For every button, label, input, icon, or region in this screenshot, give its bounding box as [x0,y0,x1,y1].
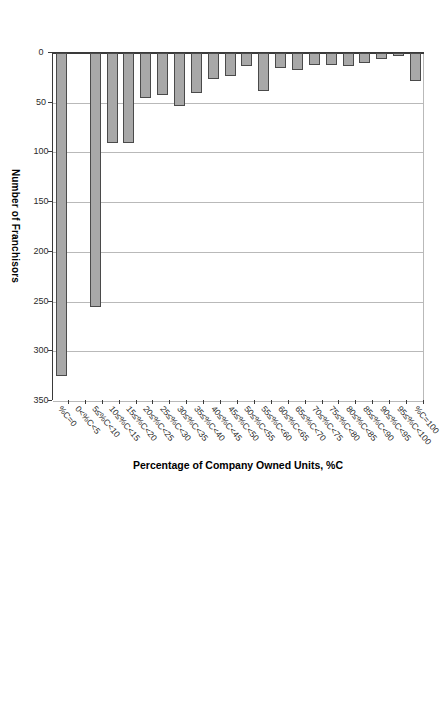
value-tick-mark-200 [48,251,52,252]
value-tick-label-150: 150 [33,196,48,206]
category-axis-title: Percentage of Company Owned Units, %C [52,455,424,475]
value-tick-mark-0 [48,52,52,53]
bar [393,53,404,56]
value-tick-label-100: 100 [33,146,48,156]
category-tick-mark [203,400,204,404]
bar-row [239,53,256,400]
category-tick-mark [102,400,103,404]
value-tick-label-0: 0 [38,47,43,57]
bar-row [340,53,357,400]
bar-row [390,53,407,400]
value-tick-mark-100 [48,151,52,152]
bar-row [289,53,306,400]
category-tick-mark [372,400,373,404]
category-axis-title-text: Percentage of Company Owned Units, %C [133,459,343,471]
value-tick-label-50: 50 [36,97,46,107]
category-tick-mark [271,400,272,404]
bar-row [205,53,222,400]
category-tick-mark [288,400,289,404]
bar-series [53,53,424,400]
bar-row [87,53,104,400]
bar [292,53,303,70]
category-tick-mark [119,400,120,404]
bar [360,53,371,63]
bar-row [154,53,171,400]
category-tick-mark [423,400,424,404]
category-tick-mark [169,400,170,404]
bar-row [171,53,188,400]
bar [191,53,202,93]
bar [225,53,236,76]
bar [326,53,337,65]
category-tick-mark [85,400,86,404]
bar-row [222,53,239,400]
value-tick-label-300: 300 [33,345,48,355]
value-axis-title: Number of Franchisors [10,0,21,452]
value-tick-label-250: 250 [33,296,48,306]
bar [309,53,320,65]
bar-row [121,53,138,400]
bar-row [306,53,323,400]
value-axis: 050100150200250300350 [18,52,52,400]
bar [174,53,185,106]
category-tick-mark [220,400,221,404]
bar-row [70,53,87,400]
bar-row [104,53,121,400]
value-tick-mark-250 [48,301,52,302]
chart-rotation-wrapper: 050100150200250300350 Number of Franchis… [0,0,446,717]
category-tick-mark [355,400,356,404]
category-tick-mark [136,400,137,404]
bar [107,53,118,143]
category-tick-mark [186,400,187,404]
bar [56,53,67,376]
bar [376,53,387,59]
bar [208,53,219,79]
value-tick-label-200: 200 [33,246,48,256]
bar-chart-figure: 050100150200250300350 Number of Franchis… [0,0,446,717]
bar-row [323,53,340,400]
category-tick-mark [406,400,407,404]
plot-area [52,52,424,400]
bar-row [373,53,390,400]
bar-row [188,53,205,400]
category-tick-mark [322,400,323,404]
bar-row [255,53,272,400]
bar [90,53,101,307]
category-tick-mark [152,400,153,404]
bar-row [272,53,289,400]
bar [157,53,168,95]
value-tick-mark-150 [48,201,52,202]
category-axis: %C=00<%C<55≤%C<1010≤%C<1515≤%C<2020≤%C<2… [52,400,424,580]
value-tick-label-350: 350 [33,395,48,405]
category-tick-mark [68,400,69,404]
bar-row [53,53,70,400]
bar-row [137,53,154,400]
value-tick-mark-300 [48,350,52,351]
bar [343,53,354,66]
bar [410,53,421,81]
category-tick-mark [305,400,306,404]
bar [275,53,286,68]
bar [123,53,134,143]
category-tick-mark [389,400,390,404]
bar-row [357,53,374,400]
bar [241,53,252,66]
category-tick-mark [254,400,255,404]
category-tick-mark [338,400,339,404]
bar [140,53,151,98]
value-tick-mark-50 [48,102,52,103]
bar [258,53,269,91]
category-tick-mark [237,400,238,404]
bar-row [407,53,424,400]
